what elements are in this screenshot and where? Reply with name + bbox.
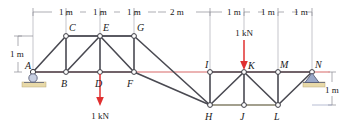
roller-support-icon — [24, 74, 44, 83]
dim-label-6: 1 m — [261, 7, 275, 17]
joint-E — [98, 34, 103, 39]
node-label-B: B — [61, 78, 67, 89]
dimension-extension-lines — [33, 12, 312, 70]
node-label-I: I — [204, 59, 209, 70]
node-label-H: H — [204, 111, 213, 122]
joint-L — [276, 103, 281, 108]
member-E-F — [100, 36, 134, 72]
node-label-M: M — [279, 59, 289, 70]
member-K-L — [244, 72, 278, 105]
member-F-H — [134, 72, 210, 105]
dim-label-1: 1 m — [59, 7, 73, 17]
member-L-N — [278, 72, 312, 105]
dim-label-4: 2 m — [170, 7, 184, 17]
node-label-A: A — [24, 60, 32, 71]
node-label-C: C — [69, 22, 76, 33]
node-label-L: L — [273, 111, 280, 122]
left-vertical-dim-label: 1 m — [10, 49, 24, 59]
node-label-K: K — [247, 60, 256, 71]
joint-G — [132, 34, 137, 39]
node-label-J: J — [240, 111, 245, 122]
right-vertical-dim-label: 1 m — [325, 85, 339, 95]
node-label-D: D — [94, 78, 103, 89]
joint-C — [64, 34, 69, 39]
member-B-E — [66, 36, 100, 72]
roller-wheel — [29, 74, 37, 82]
joint-M — [276, 70, 281, 75]
truss-figure: 1 m 1 m 1 m 2 m 1 m 1 m 1 m 1 m 1 m — [0, 0, 347, 129]
load-label-D: 1 kN — [91, 111, 109, 121]
dim-label-7: 1 m — [294, 7, 308, 17]
dimension-labels: 1 m 1 m 1 m 2 m 1 m 1 m 1 m — [59, 7, 308, 17]
dim-label-3: 1 m — [127, 7, 141, 17]
member-H-K — [210, 72, 244, 105]
truss-members — [33, 36, 312, 105]
member-G-H — [134, 36, 210, 105]
load-arrow-D-head — [96, 97, 104, 106]
joint-K — [242, 70, 247, 75]
node-label-F: F — [126, 78, 134, 89]
dim-label-5: 1 m — [227, 7, 241, 17]
joint-H — [208, 103, 213, 108]
load-arrow-K — [240, 40, 248, 70]
dim-label-2: 1 m — [93, 7, 107, 17]
node-label-N: N — [314, 59, 323, 70]
joint-I — [208, 70, 213, 75]
joint-F — [132, 70, 137, 75]
node-label-G: G — [137, 22, 144, 33]
truss-diagram: 1 m 1 m 1 m 2 m 1 m 1 m 1 m 1 m 1 m — [0, 0, 347, 129]
ground-pads — [22, 82, 325, 87]
load-label-K: 1 kN — [235, 28, 253, 38]
joint-J — [242, 103, 247, 108]
member-A-C — [33, 36, 66, 72]
joint-B — [64, 70, 69, 75]
load-arrow-K-head — [240, 61, 248, 70]
node-label-E: E — [102, 22, 109, 33]
joint-D — [98, 70, 103, 75]
